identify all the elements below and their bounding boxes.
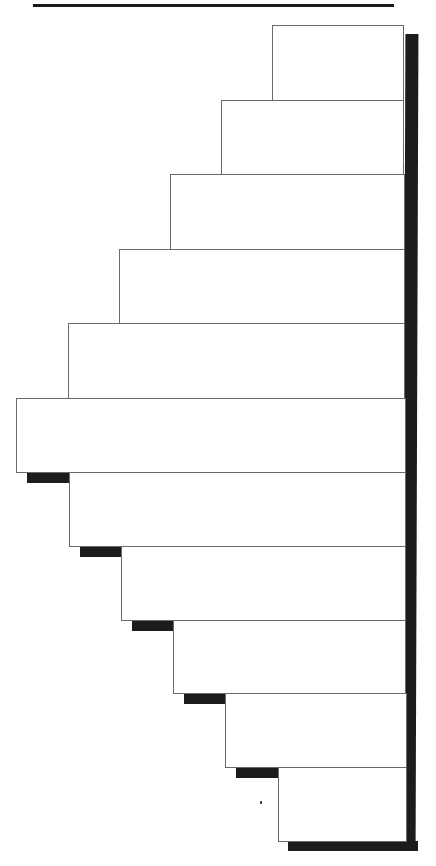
diagram-bar-1: [272, 25, 404, 101]
bar-shadow-bottom-6: [27, 472, 70, 483]
scan-speck: [260, 801, 262, 804]
diagram-bar-8: [121, 546, 406, 621]
bar-shadow-bottom-7: [80, 546, 122, 557]
bar-shadow-bottom-8: [132, 620, 174, 631]
diagram-bar-10: [225, 693, 407, 768]
diagram-bar-6: [16, 398, 406, 473]
diagram-bar-4: [119, 249, 405, 324]
diagram-bar-5: [68, 323, 405, 399]
diagram-bar-3: [170, 174, 405, 250]
bar-shadow-bottom-11: [288, 841, 418, 851]
diagram-bar-7: [69, 472, 406, 547]
bar-shadow-bottom-9: [184, 693, 226, 704]
diagram-bar-9: [173, 620, 406, 694]
diagram-bar-11: [278, 767, 407, 842]
title-underline: [33, 4, 394, 7]
diagram-bar-2: [221, 100, 404, 175]
bar-shadow-bottom-10: [236, 767, 279, 778]
